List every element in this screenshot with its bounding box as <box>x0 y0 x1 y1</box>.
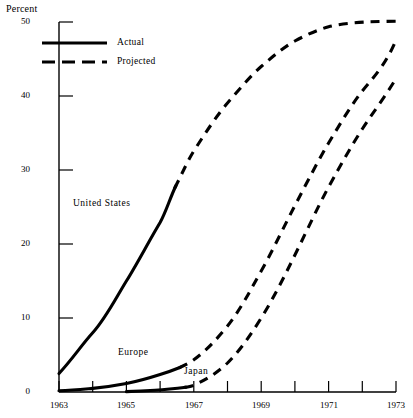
y-tick-label-40: 40 <box>8 91 30 100</box>
series-label-japan: Japan <box>184 367 208 377</box>
y-axis-title: Percent <box>6 4 37 14</box>
x-tick-label-1971: 1971 <box>309 401 349 410</box>
y-tick-label-30: 30 <box>8 165 30 174</box>
y-axis-ticks <box>59 22 73 318</box>
series-label-united-states: United States <box>73 199 130 209</box>
series-line-japan-actual <box>126 387 186 391</box>
x-tick-label-1967: 1967 <box>174 401 214 410</box>
series-line-europe-projected <box>179 40 396 368</box>
x-tick-label-1969: 1969 <box>241 401 281 410</box>
y-tick-label-20: 20 <box>8 239 30 248</box>
legend-label-projected: Projected <box>117 57 156 67</box>
y-tick-label-50: 50 <box>8 17 30 26</box>
series-line-europe-actual <box>59 367 181 391</box>
chart-plot-svg <box>0 0 413 418</box>
series-line-united-states-actual <box>59 186 176 374</box>
series-line-japan-projected <box>185 79 397 388</box>
x-tick-label-1973: 1973 <box>376 401 413 410</box>
x-tick-label-1963: 1963 <box>39 401 79 410</box>
y-tick-label-10: 10 <box>8 313 30 322</box>
y-tick-label-0: 0 <box>8 387 30 396</box>
series-line-united-states-projected <box>175 21 397 188</box>
legend-label-actual: Actual <box>117 38 144 48</box>
series-label-europe: Europe <box>118 348 148 358</box>
chart-container: Percent 50 40 30 20 10 0 1963 1965 1967 … <box>0 0 413 418</box>
x-tick-label-1965: 1965 <box>106 401 146 410</box>
